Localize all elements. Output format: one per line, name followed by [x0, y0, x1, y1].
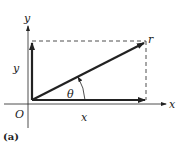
x-axis-label: x: [169, 98, 176, 111]
angle-label: θ: [67, 88, 74, 101]
y-axis-label: y: [23, 12, 31, 25]
figure-caption: (a): [3, 131, 19, 142]
x-component-label: x: [81, 111, 88, 124]
origin-label: O: [15, 108, 24, 121]
angle-arc: [78, 77, 85, 100]
r-vector: [32, 43, 144, 100]
vector-label: r: [148, 33, 154, 46]
y-component-label: y: [12, 62, 20, 75]
vector-decomposition-diagram: y y r θ x O x (a): [0, 0, 189, 147]
